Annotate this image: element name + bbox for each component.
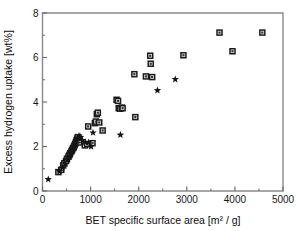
y-tick-label: 0 xyxy=(33,186,39,197)
data-point-square xyxy=(120,106,125,111)
y-tick-label: 4 xyxy=(33,97,39,108)
data-point-star xyxy=(89,129,96,136)
series-square-markers xyxy=(56,30,265,175)
x-tick-label: 0 xyxy=(40,194,46,205)
data-point-star xyxy=(154,87,161,94)
data-point-square xyxy=(181,53,186,58)
y-tick-label: 6 xyxy=(33,52,39,63)
axes-frame xyxy=(43,13,284,191)
data-point-square xyxy=(100,128,105,133)
scatter-chart-figure: 010002000300040005000 02468 BET specific… xyxy=(0,0,296,231)
x-axis-title: BET specific surface area [m² / g] xyxy=(85,214,240,226)
data-point-square xyxy=(86,124,91,129)
y-axis-tick-labels: 02468 xyxy=(33,8,39,197)
data-point-square xyxy=(116,98,121,103)
x-tick-label: 2000 xyxy=(128,194,151,205)
data-point-square xyxy=(148,53,153,58)
data-point-square xyxy=(150,75,155,80)
data-point-square xyxy=(132,72,137,77)
data-point-star xyxy=(45,176,52,183)
data-point-square xyxy=(260,30,265,35)
data-point-star xyxy=(117,131,124,138)
data-point-star xyxy=(172,75,179,82)
x-tick-label: 3000 xyxy=(176,194,199,205)
data-point-square xyxy=(143,74,148,79)
x-axis-tick-labels: 010002000300040005000 xyxy=(40,194,295,205)
data-point-square xyxy=(133,115,138,120)
data-point-square xyxy=(97,120,102,125)
plot-canvas: 010002000300040005000 02468 BET specific… xyxy=(0,0,296,231)
x-tick-label: 4000 xyxy=(224,194,247,205)
y-tick-label: 8 xyxy=(33,8,39,19)
series-star-markers xyxy=(45,75,179,182)
x-tick-label: 1000 xyxy=(79,194,102,205)
data-point-square xyxy=(95,110,100,115)
x-tick-label: 5000 xyxy=(272,194,295,205)
y-tick-label: 2 xyxy=(33,141,39,152)
y-axis-title: Excess hydrogen uptake [wt%] xyxy=(2,30,14,174)
data-point-square xyxy=(148,61,153,66)
plot-frame xyxy=(43,13,284,191)
data-point-square xyxy=(217,30,222,35)
data-point-square xyxy=(230,49,235,54)
